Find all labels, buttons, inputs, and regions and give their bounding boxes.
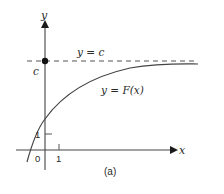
asymptote-intercept-point <box>42 58 48 64</box>
x-tick-label: 1 <box>56 153 61 164</box>
origin-label: 0 <box>35 153 40 164</box>
y-axis-label: y <box>40 9 48 22</box>
asymptote-value-label: c <box>33 65 39 77</box>
figure-caption: (a) <box>104 166 116 177</box>
curve-f-of-x <box>27 64 198 162</box>
figure-canvas: y x y = c c y = F(x) 0 1 1 (a) <box>0 0 224 194</box>
curve-label: y = F(x) <box>100 84 144 96</box>
x-axis-label: x <box>179 144 186 157</box>
asymptote-label: y = c <box>76 46 104 58</box>
y-tick-label: 1 <box>35 129 40 140</box>
